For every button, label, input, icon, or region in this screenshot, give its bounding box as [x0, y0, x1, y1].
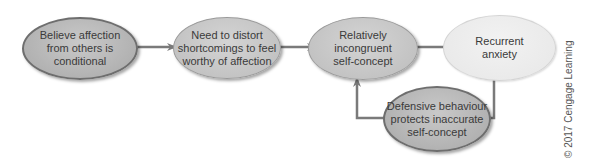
node-recurrent-anxiety: Recurrent anxiety: [443, 15, 556, 81]
node-label: Believe affection from others is conditi…: [40, 29, 121, 68]
node-need-to-distort: Need to distort shortcomings to feel wor…: [173, 17, 281, 79]
node-label: Need to distort shortcomings to feel wor…: [178, 29, 276, 68]
node-label: Recurrent anxiety: [475, 35, 523, 61]
node-label: Relatively incongruent self-concept: [333, 29, 392, 68]
node-label: Defensive behaviour protects inaccurate …: [387, 100, 487, 139]
node-believe-affection-conditional: Believe affection from others is conditi…: [22, 17, 138, 80]
node-defensive-behaviour: Defensive behaviour protects inaccurate …: [383, 86, 491, 152]
copyright-credit: © 2017 Cengage Learning: [563, 41, 574, 158]
node-incongruent-self-concept: Relatively incongruent self-concept: [308, 17, 418, 80]
